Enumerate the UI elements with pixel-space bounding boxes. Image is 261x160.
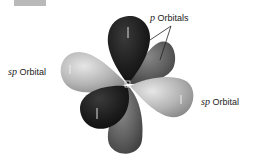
p-orbitals-label: p Orbitals bbox=[150, 13, 189, 23]
sp-orbital-right-label: sp Orbital bbox=[201, 97, 239, 107]
leader-line-dark bbox=[150, 26, 171, 40]
sp-orbital-left-label: sp Orbital bbox=[8, 67, 46, 77]
orbital-figure bbox=[0, 0, 261, 160]
sp-right-label-text: Orbital bbox=[212, 97, 239, 107]
orbital-diagram: p Orbitals sp Orbital sp Orbital bbox=[0, 0, 261, 160]
p-orbitals-label-text: Orbitals bbox=[158, 13, 189, 23]
sp-right-label-prefix: sp bbox=[201, 96, 210, 107]
sp-left-label-prefix: sp bbox=[8, 66, 17, 77]
p-orbitals-label-prefix: p bbox=[150, 12, 155, 23]
sp-left-label-text: Orbital bbox=[19, 67, 46, 77]
